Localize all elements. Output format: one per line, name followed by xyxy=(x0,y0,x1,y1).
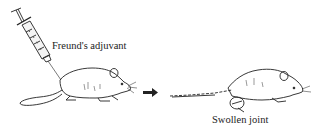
diagram-canvas: Freund's adjuvant Swollen joint xyxy=(0,0,320,134)
rat-swollen-joint-icon xyxy=(170,69,311,112)
rat-icon xyxy=(20,68,137,105)
swollen-joint-label: Swollen joint xyxy=(212,114,268,125)
arrow-right-icon xyxy=(143,88,158,97)
adjuvant-label: Freund's adjuvant xyxy=(52,40,127,51)
diagram-drawing xyxy=(0,0,320,134)
